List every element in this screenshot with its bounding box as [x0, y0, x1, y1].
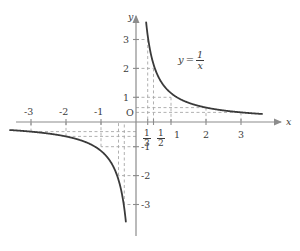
hyperbola-curves-accurate: [146, 20, 276, 114]
fraction-denominator: 2: [157, 139, 165, 148]
y-tick-label-neg1: -1: [141, 142, 150, 152]
y-tick-label-1: 1: [123, 93, 129, 103]
equation-denominator: x: [196, 61, 204, 71]
x-tick-label-1: 1: [174, 130, 180, 140]
x-tick-label-3: 3: [238, 130, 244, 140]
equation-equals: =: [186, 55, 194, 65]
y-tick-label-neg3: -3: [141, 200, 150, 210]
y-axis-label: y: [128, 12, 133, 22]
x-tick-label-one-half: 1 2: [157, 129, 165, 149]
y-tick-label-2: 2: [123, 64, 129, 74]
plot-canvas: [0, 0, 300, 251]
x-tick-label-neg2: -2: [59, 107, 68, 117]
hyperbola-figure: x y O -3 -2 -1 1 3 1 2 1 2 3 3 2 1 -1 -2…: [0, 0, 300, 251]
x-tick-label-neg1: -1: [94, 107, 103, 117]
x-tick-label-neg3: -3: [24, 107, 33, 117]
x-tick-label-2: 2: [203, 130, 209, 140]
origin-label: O: [126, 108, 134, 118]
curve-branch-negative: [10, 130, 126, 222]
y-tick-label-3: 3: [123, 35, 129, 45]
equation-label: y = 1 x: [178, 50, 204, 71]
y-tick-label-neg2: -2: [141, 171, 150, 181]
equation-lhs: y: [178, 55, 184, 65]
x-axis-label: x: [286, 117, 291, 127]
